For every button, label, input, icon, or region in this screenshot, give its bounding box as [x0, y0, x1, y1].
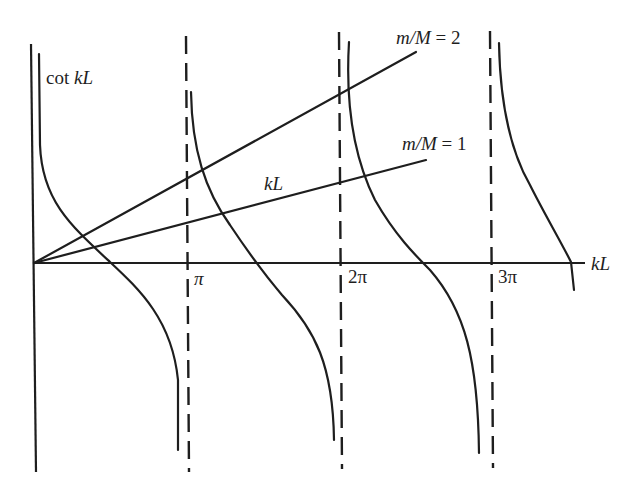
- cot-branch-1: [39, 54, 178, 450]
- tick-label-3pi: 3π: [498, 266, 518, 287]
- m-over-M-2-label: m/M = 2: [396, 27, 461, 48]
- asymptote-2pi: [339, 32, 342, 469]
- tick-label-2pi: 2π: [348, 266, 368, 287]
- y-axis: [31, 44, 36, 472]
- tick-label-pi: π: [194, 268, 204, 289]
- cot-kl-label: cot kL: [46, 67, 93, 88]
- asymptote-pi: [186, 36, 189, 472]
- line-m-over-M-1: [34, 160, 426, 263]
- cot-branch-2: [191, 92, 334, 440]
- m-over-M-1-label: m/M = 1: [402, 133, 467, 154]
- asymptote-3pi: [490, 31, 493, 468]
- cot-branch-3: [348, 42, 479, 453]
- x-axis-label: kL: [591, 253, 610, 274]
- kl-line-label: kL: [264, 173, 283, 194]
- cot-kl-diagram: cot kL kL m/M = 2 m/M = 1 kL π 2π 3π: [0, 0, 636, 503]
- cot-branch-4: [499, 43, 574, 290]
